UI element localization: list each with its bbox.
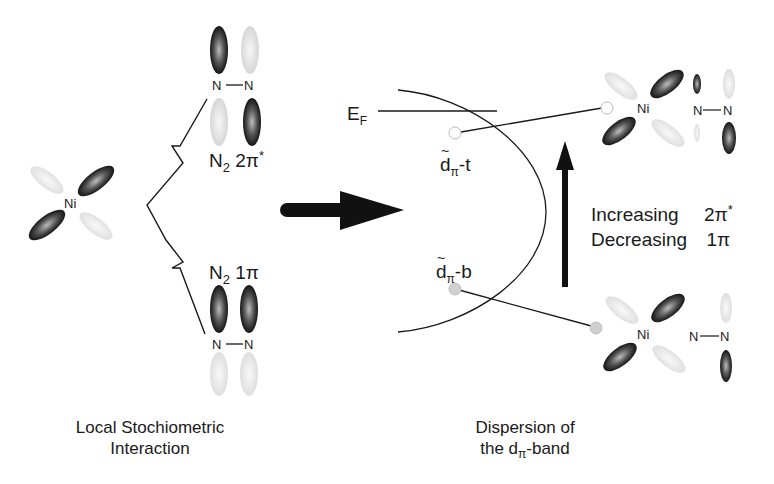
- state-bottom-endpoint: [590, 322, 602, 334]
- arrow-head: [340, 191, 404, 230]
- lobe-dark: [722, 122, 736, 154]
- lobe-dark: [24, 204, 70, 245]
- lobe-dark: [240, 285, 258, 333]
- state-bottom-connector: [459, 290, 595, 327]
- upper-complex-n2-label: N: [723, 104, 732, 117]
- lobe-faint: [240, 352, 258, 396]
- lobe-faint: [210, 98, 228, 146]
- lobe-dark: [210, 26, 228, 74]
- trend-increasing: Increasing 2π*: [591, 205, 733, 224]
- lobe-faint: [648, 340, 689, 377]
- lobe-faint: [723, 69, 735, 99]
- lobe-dark: [720, 350, 732, 382]
- trend-arrow-up: [556, 141, 574, 287]
- lobe-dark: [598, 112, 641, 151]
- lobe-dark: [647, 289, 690, 328]
- lobe-dark: [599, 338, 642, 377]
- band-dispersion-curve: [398, 90, 546, 332]
- lobe-dark: [210, 285, 228, 333]
- lobe-faint: [647, 114, 688, 151]
- right-caption: Dispersion of the dπ-band: [425, 417, 625, 460]
- arrow-head: [556, 141, 574, 170]
- upper-complex-n1-label: N: [693, 104, 702, 117]
- upper-right-complex: [598, 65, 736, 154]
- lobe-faint: [75, 207, 116, 244]
- lower-complex-ni-label: Ni: [637, 328, 649, 341]
- state-top-marker: [449, 127, 461, 139]
- lower-complex-n1-label: N: [689, 330, 698, 343]
- lobe-dark: [646, 65, 689, 104]
- lobe-faint: [600, 67, 641, 104]
- n2-upper-atom2: N: [244, 79, 253, 92]
- lobe-faint: [241, 26, 259, 74]
- lobe-dark-small: [693, 74, 701, 94]
- lobe-faint: [26, 161, 67, 198]
- transition-arrow: [280, 191, 404, 230]
- state-top-endpoint: [601, 102, 613, 114]
- lobe-faint: [601, 291, 642, 328]
- lobe-faint: [720, 293, 732, 323]
- n2-upper-atom1: N: [212, 79, 221, 92]
- lobe-dark: [243, 98, 261, 146]
- n2-2pi-star-label: N2 2π*: [209, 151, 264, 170]
- n2-lower-atom2: N: [244, 338, 253, 351]
- lower-right-complex: [599, 289, 732, 382]
- lobe-faint: [210, 352, 228, 396]
- n2-1pi-label: N2 1π: [209, 263, 259, 282]
- lower-complex-n2-label: N: [720, 330, 729, 343]
- lobe-faint-small: [694, 124, 700, 142]
- lobe-dark: [73, 160, 119, 201]
- upper-complex-ni-label: Ni: [637, 102, 649, 115]
- arrow-shaft: [562, 166, 568, 287]
- left-caption: Local Stochiometric Interaction: [50, 417, 250, 460]
- state-bottom-label: dπ-b: [436, 262, 472, 281]
- fermi-level-label: EF: [347, 104, 367, 123]
- left-ni-label: Ni: [64, 197, 76, 210]
- trend-decreasing: Decreasing 1π: [591, 230, 730, 249]
- interaction-zigzag-line: [147, 99, 207, 334]
- n2-lower-atom1: N: [212, 338, 221, 351]
- state-top-label: dπ-t: [440, 155, 470, 174]
